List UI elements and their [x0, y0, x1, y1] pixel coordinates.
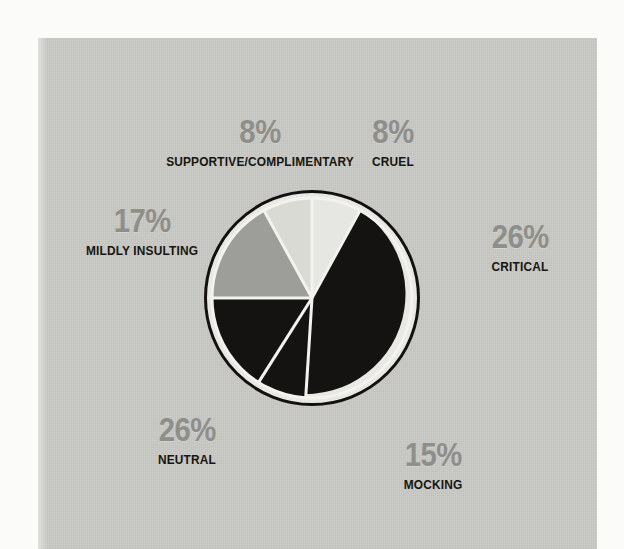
percent-mocking: 15% — [348, 437, 518, 471]
percent-critical: 26% — [440, 219, 600, 253]
percent-neutral: 26% — [92, 412, 282, 446]
label-cruel: 8% CRUEL — [318, 114, 468, 169]
label-mildly-insulting: 17% MILDLY INSULTING — [42, 203, 242, 258]
label-neutral: 26% NEUTRAL — [92, 412, 282, 467]
percent-cruel: 8% — [318, 114, 468, 148]
page-canvas: 8% SUPPORTIVE/COMPLIMENTARY 8% CRUEL 17%… — [0, 0, 624, 549]
category-neutral: NEUTRAL — [103, 453, 270, 467]
category-critical: CRITICAL — [450, 260, 591, 274]
category-mocking: MOCKING — [358, 478, 508, 492]
label-critical: 26% CRITICAL — [440, 219, 600, 274]
label-mocking: 15% MOCKING — [348, 437, 518, 492]
category-cruel: CRUEL — [327, 155, 459, 169]
percent-mildly-insulting: 17% — [42, 203, 242, 237]
category-mildly-insulting: MILDLY INSULTING — [54, 244, 230, 258]
